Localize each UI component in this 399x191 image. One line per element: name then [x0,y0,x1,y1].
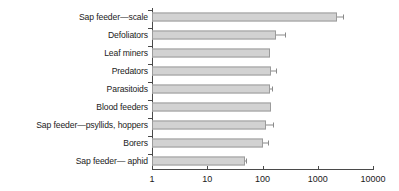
bar [152,67,271,76]
y-axis-tick [148,10,152,11]
category-label: Predators [0,66,148,76]
error-bar-cap [273,123,274,128]
x-axis-tick-label: 10 [202,174,212,184]
x-axis-tick-label: 100 [255,174,270,184]
y-axis-tick [148,100,152,101]
x-axis-tick [318,166,319,170]
category-label: Sap feeder— aphid [0,156,148,166]
bar [152,103,271,112]
bar-chart: Sap feeder—scaleDefoliatorsLeaf minersPr… [0,0,399,191]
bar [152,121,266,130]
y-axis-tick [148,28,152,29]
bar [152,13,337,22]
y-axis-tick [148,82,152,83]
error-bar-cap [268,141,269,146]
category-axis: Sap feeder—scaleDefoliatorsLeaf minersPr… [0,8,148,170]
error-bar-cap [276,69,277,74]
error-bar-cap [285,33,286,38]
x-axis-tick [373,166,374,170]
category-label: Defoliators [0,30,148,40]
y-axis-tick [148,64,152,65]
bar [152,157,245,166]
x-axis-tick [263,166,264,170]
x-axis-tick-label: 1 [149,174,154,184]
plot-area: 110100100010000 [152,8,399,170]
bar [152,139,263,148]
error-bar [276,35,285,36]
bar [152,85,270,94]
x-axis-tick [207,166,208,170]
error-bar-cap [246,159,247,164]
y-axis-tick [148,46,152,47]
category-label: Leaf miners [0,48,148,58]
category-label: Blood feeders [0,102,148,112]
category-label: Sap feeder—scale [0,12,148,22]
y-axis-tick [148,136,152,137]
category-label: Sap feeder—psyllids, hoppers [0,120,148,130]
x-axis-tick-label: 10000 [360,174,385,184]
x-axis-tick [152,166,153,170]
x-axis-tick-label: 1000 [308,174,328,184]
bar [152,49,270,58]
error-bar-cap [343,15,344,20]
y-axis-tick [148,154,152,155]
error-bar-cap [272,87,273,92]
category-label: Parasitoids [0,84,148,94]
bar [152,31,276,40]
y-axis-tick [148,118,152,119]
category-label: Borers [0,138,148,148]
